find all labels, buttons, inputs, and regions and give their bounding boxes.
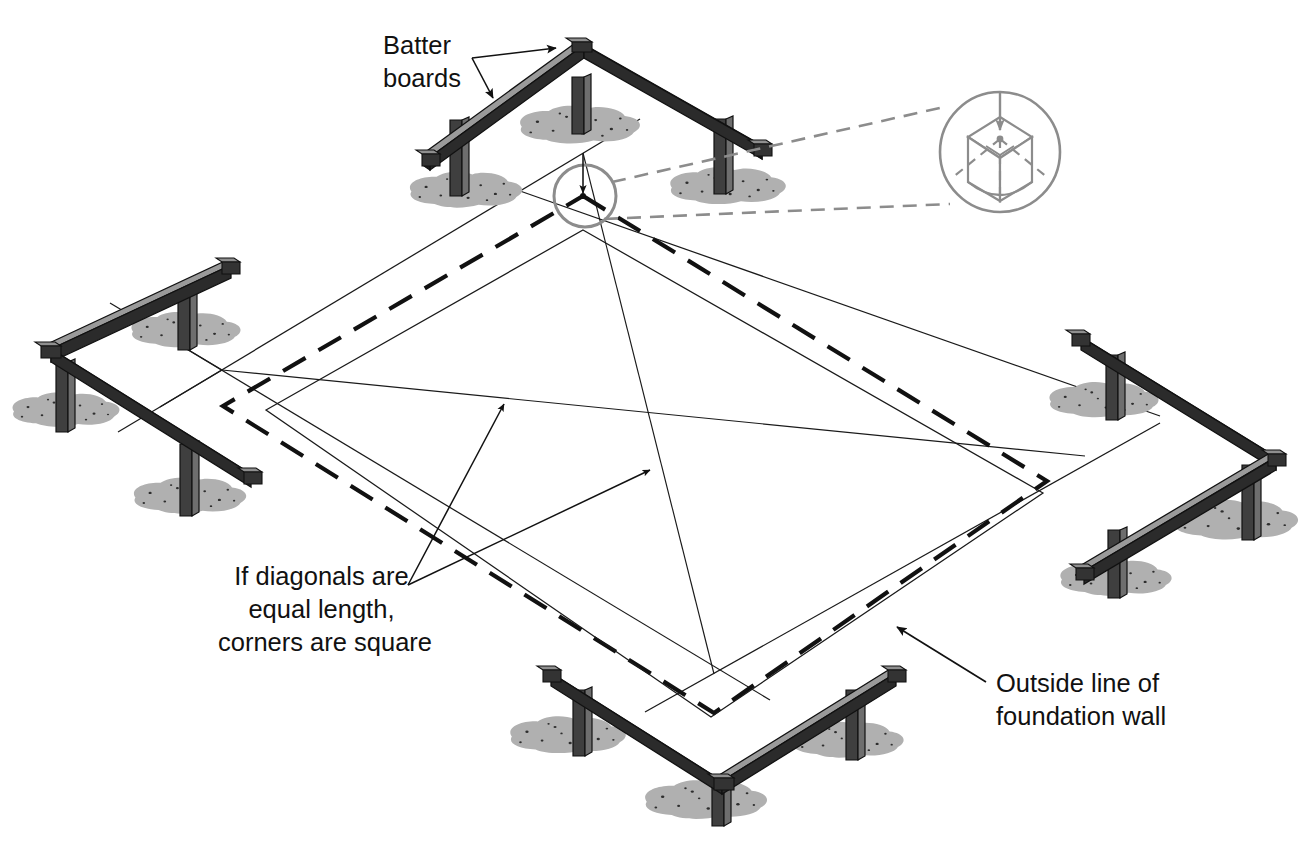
batter-board-diagram: Batter boards If diagonals are equal len… bbox=[0, 0, 1307, 852]
diagonal-north-south bbox=[583, 153, 714, 674]
diagonals-label: If diagonals are equal length, corners a… bbox=[218, 562, 432, 656]
batter-board bbox=[45, 261, 231, 362]
batter-boards-label: Batter boards bbox=[383, 31, 461, 92]
batter-board bbox=[424, 41, 584, 170]
callout-foundation-wall: Outside line of foundation wall bbox=[897, 627, 1166, 730]
batter-board-assembly-right bbox=[1066, 330, 1286, 598]
foundation-leader-line bbox=[897, 627, 986, 682]
leader-lower bbox=[604, 204, 950, 219]
board-joint-cap bbox=[35, 342, 61, 358]
string-lines-group bbox=[110, 119, 1160, 712]
board-end-cap bbox=[416, 150, 440, 166]
foundation-wall-label: Outside line of foundation wall bbox=[996, 669, 1166, 730]
string-north-east bbox=[520, 191, 1160, 416]
leader-upper bbox=[612, 107, 944, 182]
gravel-mound bbox=[645, 780, 767, 819]
plumb-bob-over-stake-detail bbox=[940, 92, 1060, 212]
batter-board-assembly-left bbox=[35, 258, 262, 516]
string-crossing-detail-circle bbox=[554, 153, 616, 227]
batter-board-assembly-bottom bbox=[537, 666, 906, 826]
stake-post bbox=[572, 74, 591, 134]
diagram-canvas: Batter boards If diagonals are equal len… bbox=[0, 0, 1307, 852]
diagonals-leader-lines bbox=[408, 404, 650, 585]
board-end-cap bbox=[1066, 330, 1090, 346]
detail-leader-lines bbox=[604, 107, 950, 219]
corner-point bbox=[580, 193, 586, 199]
board-end-cap bbox=[537, 666, 561, 682]
